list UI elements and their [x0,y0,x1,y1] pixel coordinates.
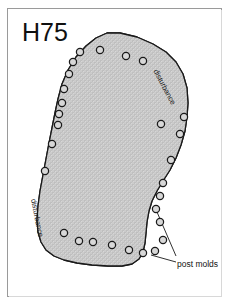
post-mold-marker [69,58,76,65]
post-mold-marker [139,249,146,256]
post-mold-marker [152,205,159,212]
post-mold-marker [55,110,62,117]
post-molds-label: post molds [177,259,218,269]
post-mold-marker [122,52,129,59]
post-mold-marker [156,192,163,199]
post-mold-marker [60,85,67,92]
post-mold-marker [96,46,103,53]
post-mold-marker [89,238,96,245]
post-mold-marker [76,48,83,55]
post-mold-marker [41,167,48,174]
post-mold-marker [48,140,55,147]
post-mold-marker [60,229,67,236]
post-mold-marker [159,236,166,243]
post-mold-marker [167,156,174,163]
post-mold-marker [108,241,115,248]
post-mold-marker [65,70,72,77]
post-mold-marker [159,179,166,186]
post-mold-marker [54,121,61,128]
post-mold-marker [176,130,183,137]
post-mold-marker [180,113,187,120]
post-mold-marker [157,120,164,127]
post-mold-marker [58,99,65,106]
post-mold-marker [139,57,146,64]
post-mold-marker [75,237,82,244]
figure-page: H75 disturbance disturbance post molds [0,0,235,307]
page-title: H75 [22,20,68,45]
post-mold-marker [125,246,132,253]
post-mold-marker [156,218,163,225]
leader-line-1 [151,255,176,262]
post-mold-marker [151,247,158,254]
